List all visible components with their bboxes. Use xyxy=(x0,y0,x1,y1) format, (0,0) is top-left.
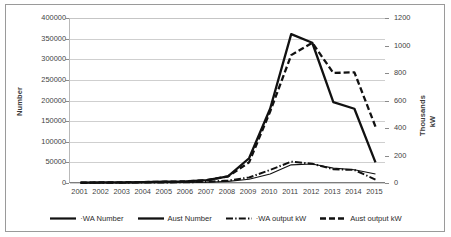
y-tick-mark-left xyxy=(65,39,69,40)
y-tick-mark-right xyxy=(385,73,389,74)
y-tick-mark-left xyxy=(65,142,69,143)
legend-swatch-dashed xyxy=(320,214,346,223)
legend-item[interactable]: Aust Number xyxy=(138,214,212,223)
series-line xyxy=(81,34,376,183)
chart-legend: ·WA NumberAust Number·WA output kWAust o… xyxy=(6,208,446,228)
x-tick-label: 2006 xyxy=(177,188,193,195)
x-tick-label: 2003 xyxy=(113,188,129,195)
chart-frame: Number Thousands kW 40000035000030000025… xyxy=(5,4,445,232)
y-tick-mark-left xyxy=(65,183,69,184)
x-tick-label: 2004 xyxy=(134,188,150,195)
legend-label: ·WA output kW xyxy=(256,214,306,223)
x-tick-label: 2008 xyxy=(219,188,235,195)
y-tick-mark-right xyxy=(385,18,389,19)
y-tick-mark-left xyxy=(65,162,69,163)
y-tick-mark-right xyxy=(385,183,389,184)
series-line xyxy=(81,162,376,183)
legend-item[interactable]: ·WA Number xyxy=(50,214,123,223)
y-tick-mark-left xyxy=(65,80,69,81)
legend-label: ·WA Number xyxy=(80,214,123,223)
x-tick-label: 2010 xyxy=(261,188,277,195)
y-tick-mark-left xyxy=(65,121,69,122)
legend-label: Aust Number xyxy=(168,214,212,223)
legend-item[interactable]: Aust output kW xyxy=(320,214,402,223)
series-line xyxy=(81,43,376,183)
legend-swatch-solid-thick xyxy=(138,214,164,223)
y-tick-mark-left xyxy=(65,101,69,102)
y-tick-mark-right xyxy=(385,128,389,129)
y-tick-mark-left xyxy=(65,18,69,19)
x-tick-label: 2001 xyxy=(71,188,87,195)
x-tick-label: 2012 xyxy=(303,188,319,195)
y-tick-mark-right xyxy=(385,46,389,47)
x-tick-label: 2014 xyxy=(345,188,361,195)
y-tick-mark-left xyxy=(65,59,69,60)
x-tick-label: 2015 xyxy=(366,188,382,195)
y-tick-mark-right xyxy=(385,156,389,157)
legend-swatch-solid-thin-dotted xyxy=(50,214,76,223)
x-tick-label: 2009 xyxy=(240,188,256,195)
x-tick-label: 2011 xyxy=(282,188,298,195)
series-lines xyxy=(70,18,386,183)
plot-area xyxy=(69,18,385,183)
x-tick-label: 2005 xyxy=(156,188,172,195)
x-tick-label: 2013 xyxy=(324,188,340,195)
y-tick-mark-right xyxy=(385,101,389,102)
legend-label: Aust output kW xyxy=(350,214,402,223)
legend-swatch-solid-dotted xyxy=(226,214,252,223)
x-tick-label: 2002 xyxy=(92,188,108,195)
x-tick-label: 2007 xyxy=(198,188,214,195)
legend-item[interactable]: ·WA output kW xyxy=(226,214,306,223)
